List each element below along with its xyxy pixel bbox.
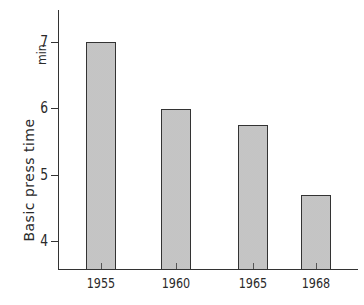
x-tick [176, 263, 177, 269]
bar-1965 [238, 125, 268, 269]
y-tick [51, 241, 58, 242]
x-tick [253, 263, 254, 269]
x-tick-label: 1965 [233, 276, 273, 290]
bar-1968 [301, 195, 331, 269]
bar-chart: Basic press time min 7 6 5 4 19551960196… [0, 0, 364, 305]
x-tick [316, 263, 317, 269]
y-axis-line [58, 10, 59, 269]
x-axis-line [58, 269, 358, 270]
x-tick-label: 1968 [296, 276, 336, 290]
x-tick-label: 1960 [156, 276, 196, 290]
y-tick-label: 5 [32, 168, 48, 183]
bar-1955 [86, 42, 116, 269]
y-tick [51, 175, 58, 176]
y-tick-label: 4 [32, 234, 48, 249]
y-tick [51, 108, 58, 109]
y-tick-label: 6 [32, 101, 48, 116]
y-tick-label: 7 [32, 35, 48, 50]
x-tick-label: 1955 [81, 276, 121, 290]
bar-1960 [161, 109, 191, 270]
x-tick [101, 263, 102, 269]
y-tick [51, 42, 58, 43]
